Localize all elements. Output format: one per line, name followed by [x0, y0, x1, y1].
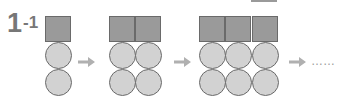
square	[199, 16, 225, 42]
cropped-underline	[251, 0, 277, 2]
circle	[45, 42, 72, 69]
arrow-right-icon	[174, 56, 192, 68]
circle	[135, 42, 162, 69]
problem-number: 1-1	[7, 10, 38, 37]
arrow-right-icon	[78, 56, 96, 68]
arrow-right-icon	[289, 56, 307, 68]
circle	[225, 69, 252, 96]
circle	[252, 69, 279, 96]
circle	[225, 42, 252, 69]
circle	[45, 69, 72, 96]
circle	[109, 42, 136, 69]
circle	[135, 69, 162, 96]
problem-number-main: 1	[7, 8, 22, 38]
circle	[199, 69, 226, 96]
square	[252, 16, 278, 42]
circle	[252, 42, 279, 69]
square	[135, 16, 161, 42]
square	[45, 16, 71, 42]
square	[225, 16, 251, 42]
continuation-ellipsis: ……	[311, 54, 335, 68]
circle	[109, 69, 136, 96]
circle	[199, 42, 226, 69]
problem-number-sub: -1	[23, 13, 38, 32]
square	[109, 16, 135, 42]
